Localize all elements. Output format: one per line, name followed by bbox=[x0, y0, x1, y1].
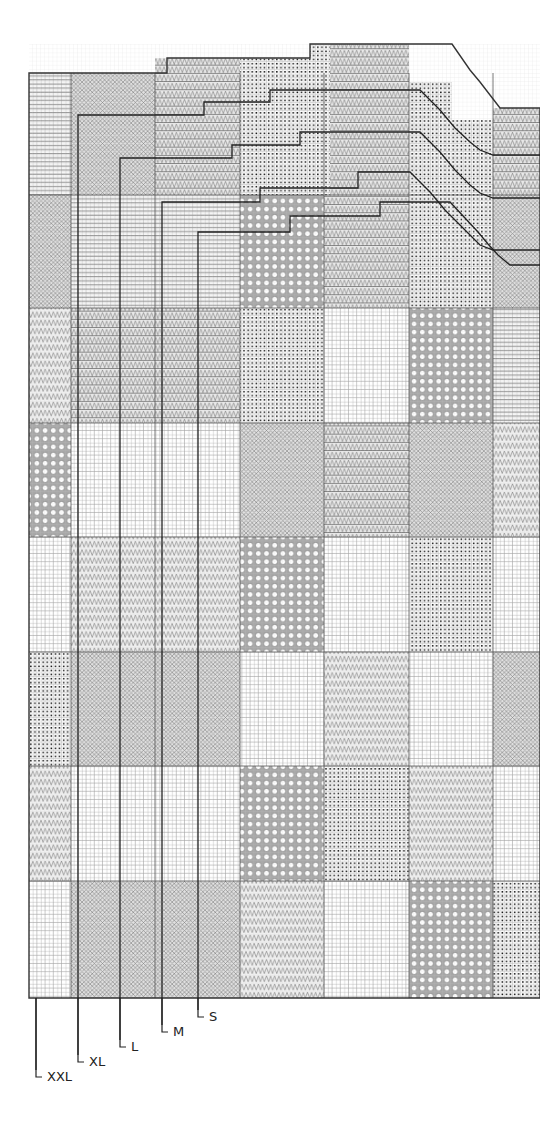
size-label-xl: XL bbox=[89, 1054, 105, 1069]
size-label-l: L bbox=[131, 1039, 138, 1054]
size-label-s: S bbox=[209, 1009, 217, 1024]
pattern-blocks bbox=[29, 44, 540, 998]
knitting-chart bbox=[0, 0, 540, 1134]
size-label-m: M bbox=[173, 1024, 184, 1039]
size-label-xxl: XXL bbox=[47, 1069, 72, 1084]
